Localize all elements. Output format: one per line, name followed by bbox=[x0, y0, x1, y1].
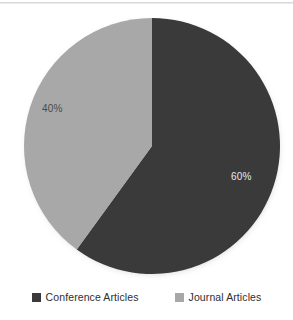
pie-slice-label-journal-articles: 40% bbox=[42, 103, 63, 114]
legend-item-journal-articles[interactable]: Journal Articles bbox=[175, 291, 262, 303]
legend-label-conference-articles: Conference Articles bbox=[46, 291, 139, 303]
legend-swatch-journal-articles bbox=[175, 293, 184, 302]
pie-chart-svg bbox=[24, 18, 280, 274]
chart-legend: Conference Articles Journal Articles bbox=[0, 288, 293, 306]
pie-chart-figure: 40% 60% Conference Articles Journal Arti… bbox=[0, 0, 293, 320]
legend-label-journal-articles: Journal Articles bbox=[189, 291, 262, 303]
pie-slice-label-conference-articles: 60% bbox=[231, 171, 252, 182]
legend-swatch-conference-articles bbox=[32, 293, 41, 302]
pie-chart-plot-area bbox=[24, 18, 280, 274]
legend-item-conference-articles[interactable]: Conference Articles bbox=[32, 291, 139, 303]
page-rule-line-secondary bbox=[0, 3, 293, 4]
